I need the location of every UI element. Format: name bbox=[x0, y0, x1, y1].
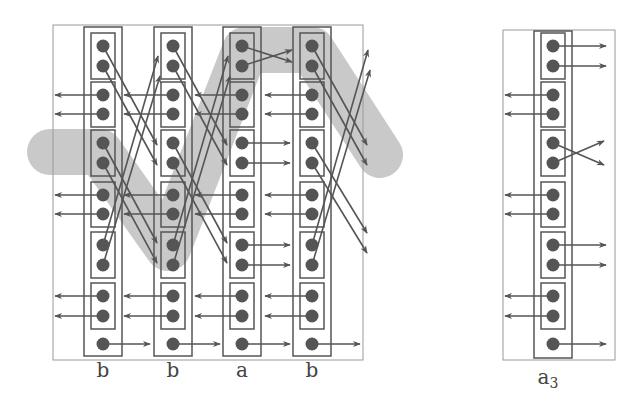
node-dot bbox=[306, 40, 319, 53]
node-dot bbox=[236, 290, 249, 303]
node-dot bbox=[167, 290, 180, 303]
node-dot bbox=[97, 259, 110, 272]
node-dot bbox=[97, 60, 110, 73]
node-dot bbox=[306, 208, 319, 221]
node-dot bbox=[306, 290, 319, 303]
column-labels: b b a b a3 bbox=[97, 358, 559, 391]
node-dot bbox=[236, 137, 249, 150]
node-dot bbox=[236, 259, 249, 272]
node-dot bbox=[547, 40, 560, 53]
node-dot bbox=[306, 189, 319, 202]
node-dot bbox=[547, 310, 560, 323]
node-dot bbox=[167, 338, 180, 351]
node-dot bbox=[306, 157, 319, 170]
node-dot bbox=[236, 310, 249, 323]
node-dot bbox=[97, 290, 110, 303]
node-dot bbox=[306, 239, 319, 252]
node-dot bbox=[547, 338, 560, 351]
node-dot bbox=[306, 108, 319, 121]
node-dot bbox=[167, 310, 180, 323]
node-dot bbox=[306, 310, 319, 323]
node-dot bbox=[547, 157, 560, 170]
switching-network-diagram: b b a b a3 bbox=[0, 0, 636, 402]
node-dot bbox=[97, 137, 110, 150]
node-dot bbox=[97, 338, 110, 351]
node-dot bbox=[167, 108, 180, 121]
node-dot bbox=[547, 259, 560, 272]
column-label-1: b bbox=[97, 358, 110, 382]
node-dot bbox=[547, 208, 560, 221]
node-dot bbox=[97, 108, 110, 121]
node-dot bbox=[167, 137, 180, 150]
column-label-right: a3 bbox=[538, 365, 559, 391]
node-dot bbox=[306, 60, 319, 73]
node-dot bbox=[236, 157, 249, 170]
node-dot bbox=[97, 189, 110, 202]
node-dot bbox=[97, 310, 110, 323]
node-dot bbox=[547, 189, 560, 202]
node-dot bbox=[97, 208, 110, 221]
node-dot bbox=[97, 157, 110, 170]
node-dot bbox=[167, 239, 180, 252]
node-dot bbox=[97, 239, 110, 252]
node-dot bbox=[306, 259, 319, 272]
node-dot bbox=[306, 137, 319, 150]
node-dot bbox=[236, 189, 249, 202]
node-dot bbox=[97, 40, 110, 53]
node-dot bbox=[236, 89, 249, 102]
node-dot bbox=[167, 89, 180, 102]
node-dot bbox=[167, 259, 180, 272]
node-dot bbox=[306, 89, 319, 102]
node-dot bbox=[236, 208, 249, 221]
node-dot bbox=[236, 338, 249, 351]
node-dot bbox=[236, 239, 249, 252]
node-dot bbox=[306, 338, 319, 351]
node-dot bbox=[547, 108, 560, 121]
arrow bbox=[553, 143, 604, 165]
node-dot bbox=[236, 40, 249, 53]
node-dot bbox=[167, 60, 180, 73]
node-dot bbox=[167, 208, 180, 221]
node-dot bbox=[236, 108, 249, 121]
node-dot bbox=[547, 239, 560, 252]
node-dot bbox=[167, 40, 180, 53]
node-dot bbox=[236, 60, 249, 73]
node-dot bbox=[547, 89, 560, 102]
node-dot bbox=[547, 290, 560, 303]
node-dot bbox=[97, 89, 110, 102]
node-dot bbox=[547, 137, 560, 150]
node-dot bbox=[167, 157, 180, 170]
node-dot bbox=[167, 189, 180, 202]
column-label-2: b bbox=[167, 358, 180, 382]
column-label-4: b bbox=[306, 358, 319, 382]
node-dot bbox=[547, 60, 560, 73]
column-label-3: a bbox=[236, 358, 248, 382]
arrow bbox=[553, 141, 604, 163]
